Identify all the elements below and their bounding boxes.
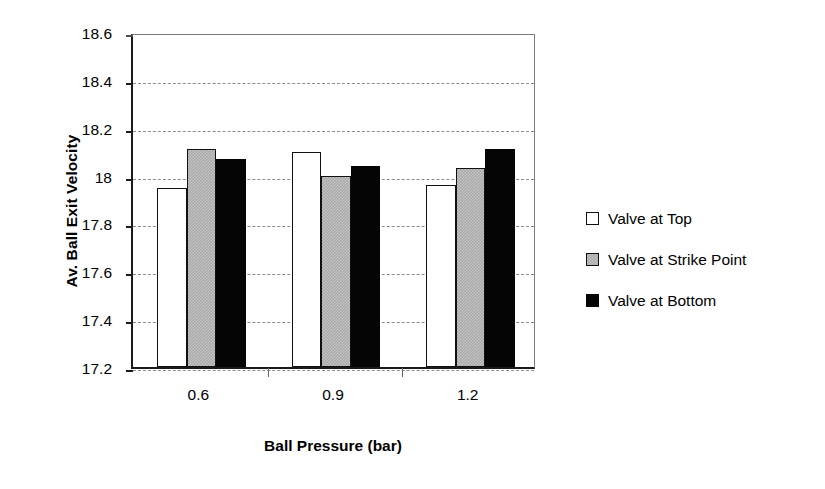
y-axis-tick-label: 18.2 xyxy=(56,122,112,138)
bar xyxy=(292,152,322,367)
x-axis-separator xyxy=(268,368,269,377)
bar xyxy=(157,188,187,367)
x-axis-separator xyxy=(402,368,403,377)
legend-item: Valve at Bottom xyxy=(586,280,821,321)
x-axis-tick-label: 0.9 xyxy=(273,386,393,404)
y-axis-tickmark xyxy=(126,274,133,276)
legend-swatch-icon xyxy=(586,294,599,307)
legend-item-label: Valve at Top xyxy=(608,210,692,228)
gridline xyxy=(133,131,534,132)
bar xyxy=(187,149,217,367)
legend-swatch-icon xyxy=(586,253,599,266)
x-axis-title: Ball Pressure (bar) xyxy=(131,437,535,455)
bar xyxy=(216,159,246,367)
y-axis-tickmark xyxy=(126,322,133,324)
legend-item-label: Valve at Bottom xyxy=(608,292,716,310)
bar xyxy=(426,185,456,367)
legend-swatch-icon xyxy=(586,212,599,225)
bar-chart-figure: Av. Ball Exit Velocity 18.618.418.21817.… xyxy=(0,0,825,489)
x-axis-tick-label: 1.2 xyxy=(408,386,528,404)
y-axis-tickmark xyxy=(126,179,133,181)
gridline xyxy=(133,370,534,371)
bar xyxy=(351,166,381,367)
y-axis-tick-label: 17.4 xyxy=(56,313,112,329)
bar xyxy=(456,168,486,367)
legend: Valve at TopValve at Strike PointValve a… xyxy=(586,198,821,321)
legend-item: Valve at Top xyxy=(586,198,821,239)
bar xyxy=(485,149,515,367)
plot-area xyxy=(131,34,535,369)
gridline xyxy=(133,83,534,84)
x-axis-tick-label: 0.6 xyxy=(138,386,258,404)
y-axis-tick-label: 18.4 xyxy=(56,74,112,90)
y-axis-tickmark xyxy=(126,226,133,228)
bar xyxy=(321,176,351,367)
y-axis-tickmark xyxy=(126,83,133,85)
y-axis-tickmark xyxy=(126,35,133,37)
y-axis-tick-label: 17.2 xyxy=(56,361,112,377)
legend-item: Valve at Strike Point xyxy=(586,239,821,280)
y-axis-tick-label: 17.8 xyxy=(56,217,112,233)
y-axis-tick-label: 17.6 xyxy=(56,265,112,281)
legend-item-label: Valve at Strike Point xyxy=(608,251,746,269)
y-axis-tick-labels: 18.618.418.21817.817.617.417.2 xyxy=(56,0,112,489)
y-axis-tickmark xyxy=(126,370,133,372)
y-axis-tick-label: 18 xyxy=(56,170,112,186)
y-axis-tickmark xyxy=(126,131,133,133)
y-axis-tick-label: 18.6 xyxy=(56,26,112,42)
